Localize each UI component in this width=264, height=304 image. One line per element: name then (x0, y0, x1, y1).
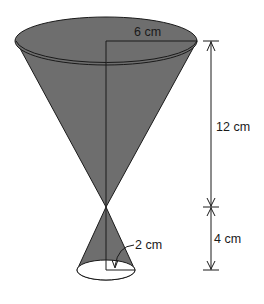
label-top-radius: 6 cm (134, 25, 161, 39)
label-top-height: 12 cm (216, 120, 250, 134)
label-bottom-height: 4 cm (214, 232, 241, 246)
cone-diagram: 6 cm 12 cm 4 cm 2 cm (0, 0, 264, 304)
label-bottom-radius: 2 cm (135, 238, 162, 252)
